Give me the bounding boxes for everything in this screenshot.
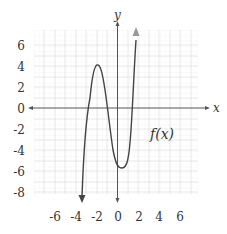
y-tick: 0 [17,102,25,116]
x-tick-labels: -6 -4 -2 0 2 4 6 [49,210,184,224]
y-tick: 4 [17,60,25,74]
x-tick: 6 [176,210,184,224]
function-graph: x y 6 4 2 0 -2 -4 -6 -8 -6 -4 -2 0 2 4 6… [0,0,227,234]
y-tick-labels: 6 4 2 0 -2 -4 -6 -8 [13,39,25,200]
y-tick: -6 [13,165,25,179]
arrow-down-icon [79,195,86,203]
x-tick: -2 [91,210,103,224]
x-tick: 4 [155,210,163,224]
x-tick: -6 [49,210,61,224]
x-tick: 2 [135,210,143,224]
x-axis-label: x [213,101,220,115]
function-label: f(x) [149,126,174,142]
y-axis-label: y [113,8,121,22]
x-tick: -4 [70,210,82,224]
y-tick: 6 [17,39,25,53]
y-tick: -4 [13,144,25,158]
x-tick: 0 [114,210,122,224]
y-tick: -8 [13,186,25,200]
grid [34,30,198,194]
y-tick: 2 [17,81,25,95]
y-tick: -2 [13,123,25,137]
